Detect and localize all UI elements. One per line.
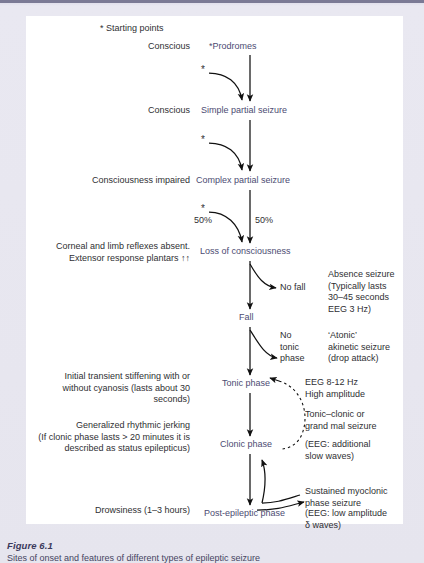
figure-caption: Figure 6.1 Sites of onset and features o… — [7, 540, 417, 563]
annotation-absence-seizure: Absence seizure (Typically lasts 30–45 s… — [328, 269, 395, 315]
label-generalized-jerking: Generalized rhythmic jerking (If clonic … — [26, 420, 190, 455]
label-corneal-reflexes: Corneal and limb reflexes absent. Extens… — [30, 241, 190, 264]
label-conscious-2: Conscious — [60, 105, 190, 117]
branch-label-no-tonic-phase: No tonic phase — [280, 330, 305, 365]
star-marker-complex-partial: * — [201, 135, 205, 145]
label-drowsiness: Drowsiness (1–3 hours) — [40, 505, 190, 517]
label-conscious-1: Conscious — [60, 41, 190, 53]
node-loss-of-consciousness: Loss of consciousness — [200, 246, 291, 257]
node-prodromes: *Prodromes — [209, 41, 257, 52]
node-tonic-phase: Tonic phase — [222, 378, 270, 389]
annotation-eeg-tonic: EEG 8-12 Hz High amplitude — [305, 377, 365, 400]
node-complex-partial-seizure: Complex partial seizure — [196, 175, 290, 186]
page-background: * Starting points Conscious Conscious Co… — [0, 0, 424, 563]
node-simple-partial-seizure: Simple partial seizure — [201, 105, 287, 116]
legend-starting-points: * Starting points — [100, 23, 164, 35]
node-post-epileptic-phase: Post-epileptic phase — [204, 508, 285, 519]
figure-panel: * Starting points Conscious Conscious Co… — [26, 16, 403, 524]
percentage-left-branch: 50% — [194, 215, 212, 226]
annotation-sustained-myoclonic: Sustained myoclonic phase seizure — [305, 486, 388, 509]
star-marker-loss-of-consciousness: * — [201, 204, 205, 214]
annotation-eeg-clonic: (EEG: additional slow waves) — [305, 439, 371, 462]
star-marker-simple-partial: * — [201, 65, 205, 75]
annotation-tonic-clonic-seizure: Tonic–clonic or grand mal seizure — [305, 409, 377, 432]
annotation-atonic-akinetic-seizure: ‘Atonic’ akinetic seizure (drop attack) — [328, 330, 390, 365]
caption-title: Figure 6.1 — [7, 540, 417, 552]
node-fall: Fall — [239, 312, 254, 323]
label-initial-stiffening: Initial transient stiffening with or wit… — [30, 371, 190, 406]
top-rule-divider — [0, 0, 424, 3]
caption-body: Sites of onset and features of different… — [7, 553, 417, 563]
annotation-eeg-post-epileptic: (EEG: low amplitude δ waves) — [305, 508, 387, 531]
node-clonic-phase: Clonic phase — [220, 439, 272, 450]
label-consciousness-impaired: Consciousness impaired — [40, 175, 190, 187]
branch-label-no-fall: No fall — [280, 282, 306, 294]
percentage-right-branch: 50% — [255, 215, 273, 226]
